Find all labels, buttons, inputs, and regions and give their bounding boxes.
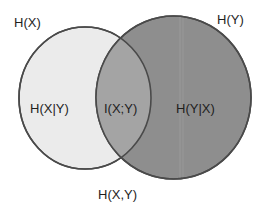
x-only-region-label: H(X|Y) bbox=[30, 101, 69, 116]
set-y-label: H(Y) bbox=[217, 12, 244, 27]
y-only-region-label: H(Y|X) bbox=[176, 101, 215, 116]
intersection-region-label: I(X;Y) bbox=[104, 101, 137, 116]
union-label: H(X,Y) bbox=[98, 187, 137, 202]
venn-diagram: H(X) H(Y) H(X|Y) I(X;Y) H(Y|X) H(X,Y) bbox=[0, 0, 261, 213]
set-x-label: H(X) bbox=[14, 15, 41, 30]
